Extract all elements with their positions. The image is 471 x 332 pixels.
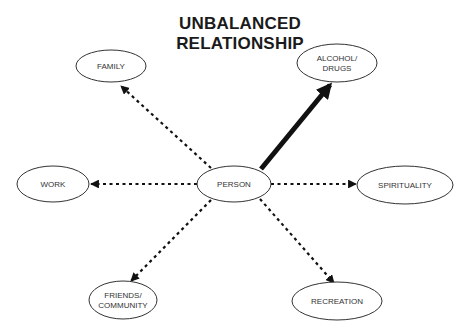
node-ellipse-friends-community [89, 281, 157, 319]
node-work: WORK [17, 166, 89, 202]
thick-arrow-alcohol-drugs [261, 85, 330, 169]
nodes-group: PERSONFAMILYALCOHOL/DRUGSWORKSPIRITUALIT… [17, 44, 453, 320]
node-recreation: RECREATION [292, 282, 382, 320]
node-label-spirituality: SPIRITUALITY [378, 181, 432, 190]
node-person: PERSON [197, 166, 271, 202]
node-label-recreation: RECREATION [311, 297, 363, 306]
node-label-family: FAMILY [97, 62, 126, 71]
node-label-person: PERSON [217, 180, 251, 189]
node-family: FAMILY [76, 50, 146, 82]
dashed-arrow-friends-community [131, 200, 211, 281]
node-label-friends-community: FRIENDS/ [104, 291, 142, 300]
node-alcohol-drugs: ALCOHOL/DRUGS [297, 44, 377, 82]
node-label-work: WORK [41, 180, 67, 189]
dashed-arrow-family [121, 86, 211, 168]
node-spirituality: SPIRITUALITY [357, 166, 453, 204]
node-label-alcohol-drugs: ALCOHOL/ [317, 54, 358, 63]
node-label-friends-community: COMMUNITY [98, 301, 148, 310]
node-ellipse-alcohol-drugs [297, 44, 377, 82]
node-friends-community: FRIENDS/COMMUNITY [89, 281, 157, 319]
node-label-alcohol-drugs: DRUGS [323, 64, 352, 73]
dashed-arrow-recreation [260, 199, 334, 283]
relationship-diagram: PERSONFAMILYALCOHOL/DRUGSWORKSPIRITUALIT… [0, 0, 471, 332]
